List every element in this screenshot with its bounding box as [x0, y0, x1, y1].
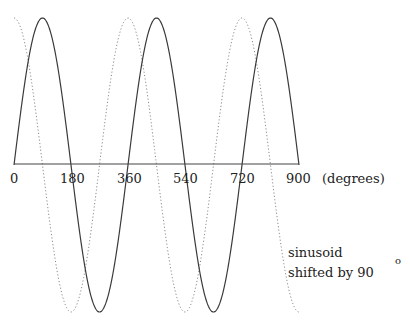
- x-tick-label-720: 720: [230, 172, 255, 185]
- annotation-line-1: sinusoid: [288, 246, 343, 259]
- degree-superscript: o: [395, 256, 401, 266]
- x-tick-label-540: 540: [173, 172, 198, 185]
- x-tick-label-900: 900: [286, 172, 311, 185]
- x-tick-label-0: 0: [10, 172, 18, 185]
- x-tick-label-360: 360: [117, 172, 142, 185]
- annotation-line-2: shifted by 90: [288, 266, 374, 279]
- x-tick-label-180: 180: [60, 172, 85, 185]
- x-axis-unit-label: (degrees): [322, 172, 385, 185]
